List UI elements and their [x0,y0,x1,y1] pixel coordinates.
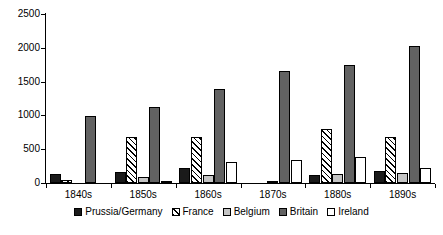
bar [309,175,320,183]
legend-swatch-icon [279,208,287,216]
bar [385,137,396,183]
legend-item: Prussia/Germany [74,207,162,217]
bar-group [241,14,306,183]
x-axis-tick-label: 1880s [305,189,370,200]
y-axis-tick-label: 0 [2,178,40,188]
bar [179,168,190,183]
x-axis-tick-label: 1890s [370,189,435,200]
y-axis-tick-label: 2500 [2,9,40,19]
legend-swatch-icon [74,208,82,216]
legend-swatch-icon [172,208,180,216]
x-axis-tick-label: 1860s [176,189,241,200]
x-axis-tick [241,184,242,188]
bar [374,171,385,183]
bar [226,162,237,183]
bar-group [176,14,241,183]
y-axis-tick-label: 1000 [2,110,40,120]
legend-item: Ireland [327,207,369,217]
bar-group [305,14,370,183]
legend-label: Belgium [234,207,270,217]
x-axis-tick [111,184,112,188]
chart-legend: Prussia/GermanyFranceBelgiumBritainIrela… [0,207,443,217]
legend-label: Ireland [338,207,369,217]
bar [115,172,126,183]
x-axis-tick-label: 1840s [46,189,111,200]
bar [397,173,408,183]
bar [161,181,172,183]
x-axis-tick [435,184,436,188]
x-axis-tick [176,184,177,188]
bar-group [111,14,176,183]
bar-chart: 05001000150020002500 1840s1850s1860s1870… [0,0,443,235]
bar [138,177,149,183]
y-axis-tick-label: 1500 [2,77,40,87]
bar [409,46,420,183]
bar [85,116,96,183]
bar [321,129,332,183]
x-axis-tick-label: 1870s [241,189,306,200]
legend-item: France [172,207,214,217]
bar [50,174,61,183]
bar [344,65,355,183]
legend-label: Prussia/Germany [85,207,162,217]
legend-item: Britain [279,207,318,217]
plot-area [46,14,435,183]
bar [191,137,202,183]
bar [203,175,214,183]
x-axis-tick [370,184,371,188]
bar [355,157,366,183]
bar [291,160,302,183]
bar [126,137,137,183]
legend-item: Belgium [223,207,270,217]
legend-swatch-icon [327,208,335,216]
legend-label: France [183,207,214,217]
x-axis-tick [305,184,306,188]
legend-swatch-icon [223,208,231,216]
bar [420,168,431,183]
bar [279,71,290,183]
bar-group [46,14,111,183]
y-axis-tick-label: 500 [2,144,40,154]
x-axis-tick-label: 1850s [111,189,176,200]
legend-label: Britain [290,207,318,217]
y-axis-tick-label: 2000 [2,43,40,53]
bar [61,180,72,183]
bar [332,174,343,183]
bar [267,181,278,183]
bar [214,89,225,183]
y-axis-labels: 05001000150020002500 [0,0,40,235]
x-axis-tick [46,184,47,188]
bar [149,107,160,183]
bar-group [370,14,435,183]
